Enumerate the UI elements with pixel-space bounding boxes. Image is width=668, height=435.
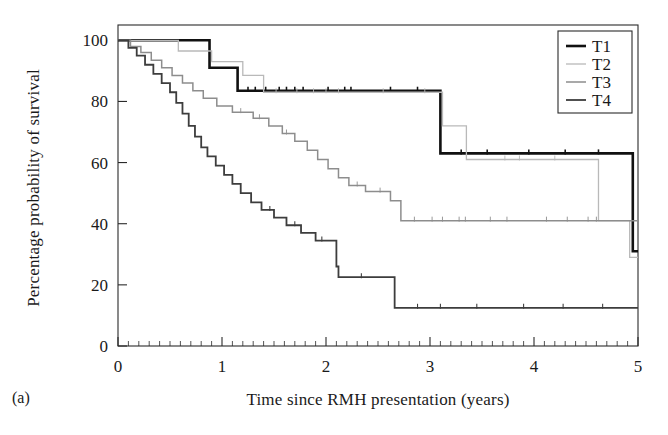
x-axis-tick-label: 3	[426, 357, 435, 376]
legend: T1T2T3T4	[558, 31, 632, 113]
y-axis-tick-label: 80	[91, 92, 108, 111]
y-axis-tick-label: 0	[100, 337, 109, 356]
x-axis-label: Time since RMH presentation (years)	[118, 390, 638, 410]
legend-label-t2: T2	[592, 55, 611, 74]
x-axis-tick-label: 0	[114, 357, 123, 376]
survival-curve-figure: Percentage probability of survival Time …	[0, 0, 668, 435]
legend-label-t3: T3	[592, 73, 611, 92]
x-axis-tick-label: 1	[218, 357, 227, 376]
plot-canvas: 012345020406080100T1T2T3T4	[0, 0, 668, 435]
y-axis-label: Percentage probability of survival	[24, 28, 44, 348]
x-axis-tick-label: 2	[322, 357, 331, 376]
y-axis-tick-label: 40	[91, 215, 108, 234]
legend-label-t1: T1	[592, 37, 611, 56]
y-axis-tick-label: 60	[91, 154, 108, 173]
legend-label-t4: T4	[592, 91, 611, 110]
panel-tag: (a)	[12, 389, 30, 407]
y-axis-tick-label: 20	[91, 276, 108, 295]
y-axis-tick-label: 100	[83, 31, 109, 50]
x-axis-tick-label: 5	[634, 357, 643, 376]
x-axis-tick-label: 4	[530, 357, 539, 376]
